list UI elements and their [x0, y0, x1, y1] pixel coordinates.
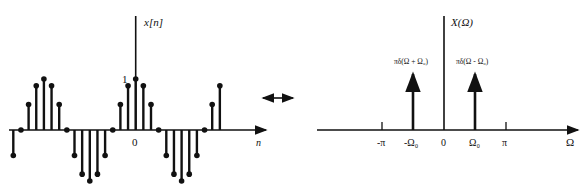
stem-dot	[102, 153, 108, 159]
stem-dot	[164, 153, 170, 159]
stem-dot	[79, 171, 85, 177]
discrete-signal-plot: x[n] n 0 1	[9, 16, 266, 184]
impulse-label-left: πδ(Ω + Ω₀)	[394, 57, 429, 66]
origin-label: 0	[132, 136, 138, 148]
stem-dot	[133, 76, 139, 82]
diagram-canvas: x[n] n 0 1 X(Ω) Ω πδ(Ω + Ω₀) πδ(Ω - Ω₀) …	[0, 0, 588, 192]
tick-label-omega0: Ω₀	[469, 137, 480, 148]
tick-label-zero: 0	[441, 137, 446, 148]
stem-dot	[18, 127, 24, 133]
stem-dot	[87, 178, 93, 184]
stem-dot	[72, 153, 78, 159]
stem-dot	[194, 153, 200, 159]
stem-dot	[110, 127, 116, 133]
tick-label-minus-omega0: -Ω₀	[404, 137, 419, 148]
stem-dot	[26, 102, 32, 108]
stem-dot	[11, 153, 17, 159]
X-omega-axis-label: X(Ω)	[450, 16, 473, 29]
impulse-label-right: πδ(Ω - Ω₀)	[456, 57, 489, 66]
stem-dot	[95, 171, 101, 177]
stem-dot	[64, 127, 70, 133]
stem-dot	[186, 171, 192, 177]
stem-dot	[209, 102, 215, 108]
stem-dot	[171, 171, 177, 177]
stem-dot	[179, 178, 185, 184]
stem-dot	[156, 127, 162, 133]
stem-dot	[141, 83, 147, 89]
n-axis-label: n	[256, 137, 261, 148]
omega-axis-label: Ω	[566, 136, 574, 148]
spectrum-plot: X(Ω) Ω πδ(Ω + Ω₀) πδ(Ω - Ω₀) -π -Ω₀ 0 Ω₀…	[317, 16, 578, 148]
stem-dot	[56, 102, 62, 108]
stem-dot	[217, 83, 223, 89]
xn-axis-label: x[n]	[143, 16, 163, 28]
stem-dot	[49, 83, 55, 89]
stem-dot	[202, 127, 208, 133]
tick-label-pi: π	[502, 137, 507, 148]
tick-label-minus-pi: -π	[377, 137, 385, 148]
stem-dot	[33, 83, 39, 89]
stem-dot	[41, 76, 47, 82]
stem-dot	[118, 102, 124, 108]
peak-value-label: 1	[122, 73, 128, 85]
stem-dot	[148, 102, 154, 108]
